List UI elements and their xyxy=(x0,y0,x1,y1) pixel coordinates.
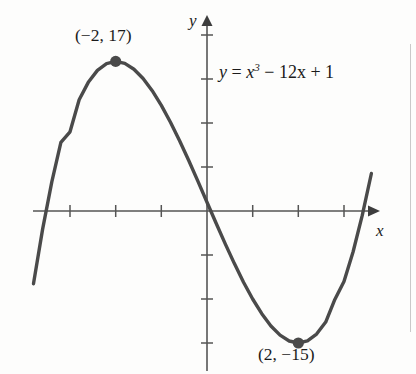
page-margin-rule xyxy=(410,44,411,332)
cubic-function-graph: (−2, 17) (2, −15) y = x3 − 12x + 1 x y xyxy=(0,0,416,374)
equation-remainder: − 12x + 1 xyxy=(264,62,334,82)
x-axis-arrowhead xyxy=(368,206,380,217)
equation-variable: x xyxy=(246,62,254,82)
graph-canvas xyxy=(0,0,416,374)
equation-lhs: y xyxy=(219,62,227,82)
minimum-point-label: (2, −15) xyxy=(258,346,315,364)
y-axis-label: y xyxy=(189,12,197,29)
x-axis-label: x xyxy=(376,222,384,239)
maximum-point-label: (−2, 17) xyxy=(75,27,132,45)
cubic-curve xyxy=(33,61,371,343)
y-axis-arrowhead xyxy=(202,15,213,26)
equation-label: y = x3 − 12x + 1 xyxy=(219,62,334,81)
local-maximum-point xyxy=(110,56,121,67)
equation-exponent: 3 xyxy=(254,61,260,73)
equation-equals-sign: = xyxy=(232,62,242,82)
